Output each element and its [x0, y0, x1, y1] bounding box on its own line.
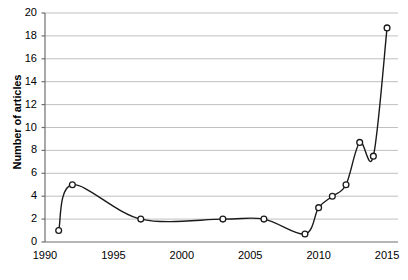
data-point-marker[interactable] [370, 153, 376, 159]
y-tick-label: 8 [13, 143, 37, 155]
y-tick-label: 14 [13, 75, 37, 87]
x-tick-label: 2015 [364, 249, 408, 261]
y-tick-label: 18 [13, 29, 37, 41]
data-point-marker[interactable] [302, 231, 308, 237]
x-tick-label: 2000 [159, 249, 205, 261]
y-tick-label: 6 [13, 166, 37, 178]
y-tick-label: 16 [13, 52, 37, 64]
y-tick-label: 4 [13, 189, 37, 201]
data-point-marker[interactable] [69, 182, 75, 188]
data-point-marker[interactable] [329, 193, 335, 199]
x-tick-label: 1995 [90, 249, 136, 261]
y-tick-label: 10 [13, 121, 37, 133]
y-tick-label: 2 [13, 212, 37, 224]
data-point-marker[interactable] [220, 216, 226, 222]
y-tick-label: 12 [13, 98, 37, 110]
data-point-marker[interactable] [261, 216, 267, 222]
data-point-marker[interactable] [343, 182, 349, 188]
x-tick-label: 2005 [227, 249, 273, 261]
data-point-marker[interactable] [56, 228, 62, 234]
chart-plot-area [0, 0, 408, 280]
data-point-marker[interactable] [384, 25, 390, 31]
y-tick-label: 0 [13, 235, 37, 247]
y-tick-label: 20 [13, 6, 37, 18]
data-point-marker[interactable] [138, 216, 144, 222]
data-point-marker[interactable] [357, 139, 363, 145]
data-point-marker[interactable] [316, 205, 322, 211]
x-tick-label: 1990 [22, 249, 68, 261]
x-tick-label: 2010 [296, 249, 342, 261]
line-chart: Number of articles 02468101214161820 199… [0, 0, 408, 280]
